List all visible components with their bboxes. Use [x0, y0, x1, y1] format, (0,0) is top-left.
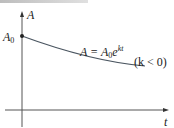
- y-axis-label: A: [27, 9, 34, 21]
- equation-lhs: A = A: [80, 45, 108, 59]
- initial-value-label: A0: [3, 31, 14, 45]
- x-axis-arrow-icon: [163, 108, 169, 112]
- initial-value-subscript: 0: [10, 36, 14, 45]
- x-axis-label: t: [164, 116, 167, 128]
- condition-label: (k < 0): [134, 56, 167, 68]
- initial-point: [20, 34, 24, 38]
- equation-exponent: kt: [118, 44, 124, 53]
- equation-label: A = A0ekt: [80, 45, 123, 60]
- y-axis-arrow-icon: [20, 11, 24, 17]
